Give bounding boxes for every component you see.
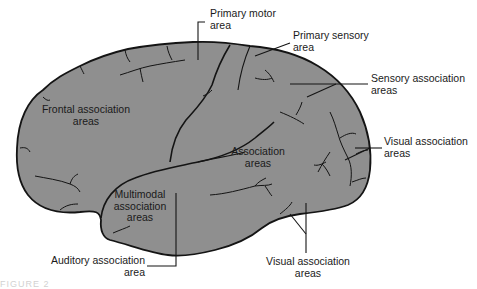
label-line: areas bbox=[371, 85, 465, 97]
label-line: area bbox=[210, 20, 276, 32]
label-sensory-association-areas: Sensory association areas bbox=[371, 73, 465, 96]
label-line: areas bbox=[260, 268, 356, 280]
label-line: areas bbox=[384, 148, 468, 160]
label-line: area bbox=[293, 42, 369, 54]
label-visual-association-areas-bottom: Visual association areas bbox=[260, 256, 356, 279]
label-auditory-association-area: Auditory association area bbox=[44, 255, 145, 278]
label-primary-sensory-area: Primary sensory area bbox=[293, 30, 369, 53]
label-association-areas: Association areas bbox=[228, 146, 288, 169]
label-line: Sensory association bbox=[371, 73, 465, 85]
cerebrum-shape bbox=[17, 42, 371, 256]
label-visual-association-areas-right: Visual association areas bbox=[384, 136, 468, 159]
label-line: areas bbox=[110, 212, 170, 224]
label-line: Association bbox=[228, 146, 288, 158]
label-line: Multimodal bbox=[110, 189, 170, 201]
label-line: areas bbox=[38, 116, 134, 128]
label-multimodal-association-areas: Multimodal association areas bbox=[110, 189, 170, 224]
label-line: area bbox=[44, 267, 145, 279]
label-line: areas bbox=[228, 158, 288, 170]
label-line: Frontal association bbox=[38, 104, 134, 116]
label-line: Primary sensory bbox=[293, 30, 369, 42]
label-line: Auditory association bbox=[44, 255, 145, 267]
label-frontal-association-areas: Frontal association areas bbox=[38, 104, 134, 127]
figure-caption: FIGURE 2 bbox=[0, 279, 50, 289]
label-line: Visual association bbox=[260, 256, 356, 268]
label-line: Visual association bbox=[384, 136, 468, 148]
label-line: Primary motor bbox=[210, 8, 276, 20]
label-primary-motor-area: Primary motor area bbox=[210, 8, 276, 31]
